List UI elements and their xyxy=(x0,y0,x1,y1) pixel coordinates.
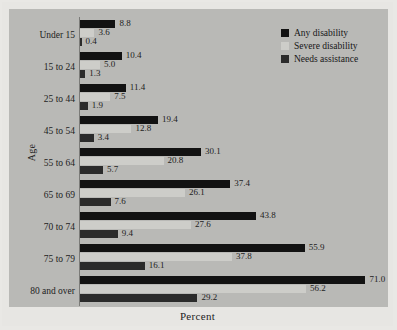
bar-any xyxy=(80,212,256,220)
bar-severe xyxy=(80,189,185,197)
bar-needs xyxy=(80,230,118,238)
legend-swatch-icon xyxy=(281,29,289,37)
bar-value-label: 7.5 xyxy=(114,92,125,100)
legend-item-any-disability: Any disability xyxy=(281,27,391,38)
chart-legend: Any disability Severe disability Needs a… xyxy=(281,27,391,66)
chart-page: Age Under 1515 to 2425 to 4445 to 5455 t… xyxy=(0,0,397,330)
bar-needs xyxy=(80,198,111,206)
bar-value-label: 16.1 xyxy=(149,261,165,269)
bar-needs xyxy=(80,294,197,302)
bar-value-label: 56.2 xyxy=(310,284,326,292)
bar-value-label: 37.8 xyxy=(236,252,252,260)
bar-value-label: 19.4 xyxy=(162,115,178,123)
bar-value-label: 5.0 xyxy=(104,60,115,68)
bar-needs xyxy=(80,134,94,142)
category-label: 75 to 79 xyxy=(44,254,75,264)
bar-value-label: 37.4 xyxy=(234,179,250,187)
bar-value-label: 3.4 xyxy=(98,133,109,141)
category-labels: Under 1515 to 2425 to 4445 to 5455 to 64… xyxy=(9,19,75,307)
bar-value-label: 30.1 xyxy=(205,147,221,155)
bar-needs xyxy=(80,102,88,110)
bar-needs xyxy=(80,70,85,78)
bar-value-label: 29.2 xyxy=(201,293,217,301)
bar-severe xyxy=(80,221,191,229)
bar-severe xyxy=(80,285,306,293)
legend-swatch-icon xyxy=(281,42,289,50)
bar-value-label: 10.4 xyxy=(126,51,142,59)
chart-frame: Age Under 1515 to 2425 to 4445 to 5455 t… xyxy=(2,2,393,326)
bar-value-label: 3.6 xyxy=(98,28,109,36)
category-label: 80 and over xyxy=(30,286,75,296)
bar-any xyxy=(80,52,122,60)
bar-value-label: 55.9 xyxy=(309,243,325,251)
category-label: 45 to 54 xyxy=(44,126,75,136)
bar-needs xyxy=(80,166,103,174)
bar-value-label: 11.4 xyxy=(130,83,145,91)
bar-severe xyxy=(80,157,164,165)
bar-value-label: 7.6 xyxy=(115,197,126,205)
bar-value-label: 27.6 xyxy=(195,220,211,228)
legend-label: Needs assistance xyxy=(294,54,358,64)
bar-value-label: 26.1 xyxy=(189,188,205,196)
category-label: 65 to 69 xyxy=(44,190,75,200)
bar-any xyxy=(80,180,230,188)
bar-value-label: 12.8 xyxy=(135,124,151,132)
bar-value-label: 71.0 xyxy=(369,275,385,283)
legend-swatch-icon xyxy=(281,55,289,63)
category-label: 15 to 24 xyxy=(44,62,75,72)
category-label: 55 to 64 xyxy=(44,158,75,168)
legend-label: Severe disability xyxy=(294,41,358,51)
category-label: Under 15 xyxy=(39,30,75,40)
bar-value-label: 0.4 xyxy=(86,37,97,45)
bar-value-label: 5.7 xyxy=(107,165,118,173)
category-label: 25 to 44 xyxy=(44,94,75,104)
legend-label: Any disability xyxy=(294,28,348,38)
plot-panel: Age Under 1515 to 2425 to 4445 to 5455 t… xyxy=(9,9,388,307)
legend-item-severe-disability: Severe disability xyxy=(281,40,391,51)
bar-value-label: 43.8 xyxy=(260,211,276,219)
bar-any xyxy=(80,244,305,252)
bar-value-label: 20.8 xyxy=(168,156,184,164)
bar-value-label: 8.8 xyxy=(119,19,130,27)
bar-value-label: 1.3 xyxy=(89,69,100,77)
bar-needs xyxy=(80,262,145,270)
bar-value-label: 9.4 xyxy=(122,229,133,237)
category-label: 70 to 74 xyxy=(44,222,75,232)
legend-item-needs-assistance: Needs assistance xyxy=(281,53,391,64)
bar-value-label: 1.9 xyxy=(92,101,103,109)
bar-needs xyxy=(80,38,82,46)
x-axis-title: Percent xyxy=(2,310,393,322)
